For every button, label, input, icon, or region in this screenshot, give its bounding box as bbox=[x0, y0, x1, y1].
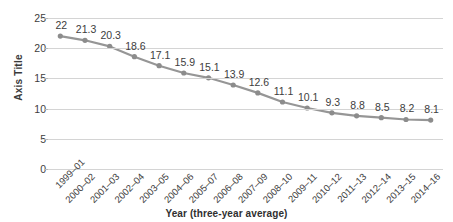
data-point-marker bbox=[329, 110, 334, 115]
y-axis-tick-label: 25 bbox=[24, 13, 46, 24]
y-axis-tick bbox=[44, 48, 48, 49]
data-label: 22 bbox=[56, 20, 68, 31]
y-axis-tick-labels: 0510152025 bbox=[22, 0, 46, 222]
data-label: 10.1 bbox=[298, 91, 318, 102]
x-axis-tick-label: 1999–01 bbox=[53, 171, 72, 190]
y-axis-tick-label: 10 bbox=[24, 104, 46, 115]
y-axis-tick bbox=[44, 109, 48, 110]
y-axis-tick bbox=[44, 18, 48, 19]
data-label: 12.6 bbox=[249, 76, 269, 87]
data-point-marker bbox=[181, 70, 186, 75]
data-point-marker bbox=[280, 99, 285, 104]
data-point-marker bbox=[231, 82, 236, 87]
data-point-marker bbox=[354, 113, 359, 118]
data-label: 8.1 bbox=[424, 104, 439, 115]
data-label: 15.9 bbox=[175, 56, 195, 67]
data-label: 11.1 bbox=[274, 85, 294, 96]
gridline bbox=[48, 18, 443, 19]
data-label: 18.6 bbox=[125, 40, 145, 51]
data-point-marker bbox=[58, 34, 63, 39]
gridline bbox=[48, 139, 443, 140]
data-label: 20.3 bbox=[101, 30, 121, 41]
data-label: 8.2 bbox=[400, 103, 415, 114]
plot-area: 2221.320.318.617.115.915.113.912.611.110… bbox=[48, 18, 443, 169]
y-axis-tick-label: 20 bbox=[24, 43, 46, 54]
data-label: 8.8 bbox=[350, 99, 365, 110]
data-point-marker bbox=[428, 118, 433, 123]
data-point-marker bbox=[379, 115, 384, 120]
y-axis-tick-label: 15 bbox=[24, 73, 46, 84]
y-axis-tick bbox=[44, 78, 48, 79]
y-axis-tick-label: 5 bbox=[24, 134, 46, 145]
data-label: 9.3 bbox=[326, 96, 341, 107]
y-axis-tick-label: 0 bbox=[24, 164, 46, 175]
data-label: 8.5 bbox=[375, 101, 390, 112]
x-axis-tick-labels: 1999–012000–022001–032002–042003–052004–… bbox=[48, 171, 443, 211]
data-point-marker bbox=[82, 38, 87, 43]
data-point-marker bbox=[132, 54, 137, 59]
data-label: 15.1 bbox=[199, 61, 219, 72]
data-point-marker bbox=[255, 90, 260, 95]
gridline bbox=[48, 169, 443, 170]
data-label: 21.3 bbox=[76, 24, 96, 35]
data-label: 17.1 bbox=[150, 49, 170, 60]
data-point-marker bbox=[403, 117, 408, 122]
y-axis-tick bbox=[44, 139, 48, 140]
gridline bbox=[48, 78, 443, 79]
data-point-marker bbox=[157, 63, 162, 68]
line-chart: Axis Title 0510152025 2221.320.318.617.1… bbox=[0, 0, 453, 222]
y-axis-tick bbox=[44, 169, 48, 170]
data-label: 13.9 bbox=[224, 69, 244, 80]
x-axis-title: Year (three-year average) bbox=[0, 208, 453, 219]
gridline bbox=[48, 48, 443, 49]
